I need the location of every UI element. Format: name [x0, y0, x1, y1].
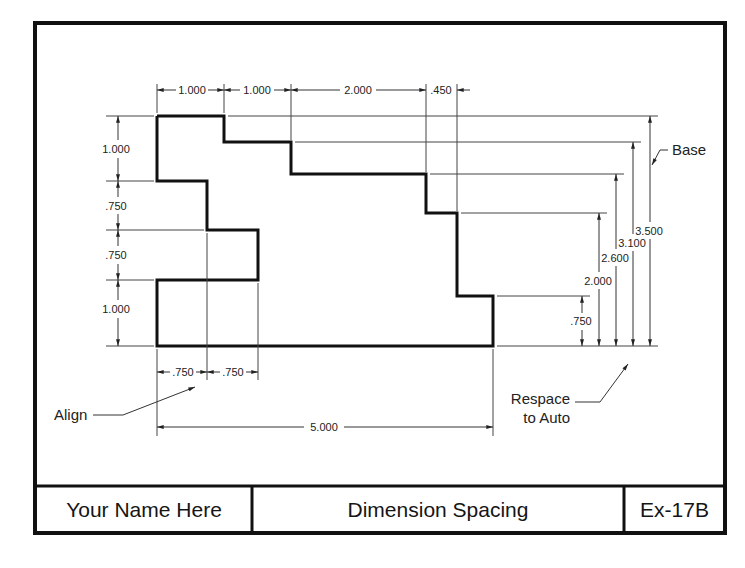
dimension-lines	[118, 90, 650, 427]
dim-top-1: 1.000	[178, 84, 206, 96]
dim-top-4: .450	[430, 84, 451, 96]
dim-bottom-2: .750	[222, 366, 243, 378]
drawing-title-text: Dimension Spacing	[348, 498, 529, 522]
name-text: Your Name Here	[66, 498, 222, 522]
dim-left-1: 1.000	[102, 143, 130, 155]
title-block-name: Your Name Here	[37, 487, 251, 533]
border-frame	[35, 23, 725, 533]
dim-left-3: .750	[105, 249, 126, 261]
dim-baseline-5: 3.500	[635, 225, 663, 237]
extension-lines	[106, 84, 658, 436]
dim-left-2: .750	[105, 200, 126, 212]
dim-baseline-1: .750	[570, 315, 591, 327]
dim-bottom-1: .750	[172, 366, 193, 378]
drawing-sheet: 1.000 1.000 2.000 .450 1.000 .750 .750 1…	[0, 0, 745, 568]
title-block-title: Dimension Spacing	[254, 487, 622, 533]
note-respace-line2: to Auto	[523, 409, 570, 426]
dim-top-2: 1.000	[243, 84, 271, 96]
dim-top-3: 2.000	[344, 84, 372, 96]
note-respace-line1: Respace	[511, 390, 570, 407]
drawing-canvas: 1.000 1.000 2.000 .450 1.000 .750 .750 1…	[0, 0, 745, 568]
dim-baseline-2: 2.000	[584, 275, 612, 287]
note-align: Align	[54, 406, 87, 423]
title-block-exercise: Ex-17B	[626, 487, 723, 533]
dim-baseline-3: 2.600	[601, 252, 629, 264]
dim-baseline-4: 3.100	[618, 237, 646, 249]
exercise-number-text: Ex-17B	[640, 498, 709, 522]
dim-overall-width: 5.000	[310, 421, 338, 433]
note-base: Base	[672, 141, 706, 158]
dim-left-4: 1.000	[102, 303, 130, 315]
